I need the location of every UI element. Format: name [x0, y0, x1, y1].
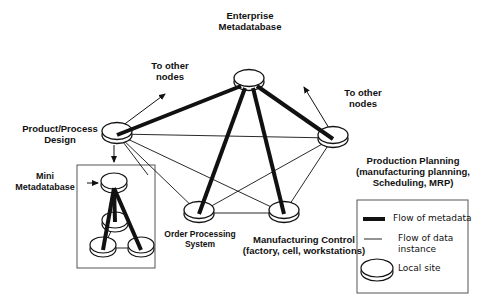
label-line: Enterprise	[210, 10, 290, 21]
label-line: System	[163, 239, 237, 249]
legend-local-site-icon	[361, 259, 393, 281]
legend-label-metadata-flow: Flow of metadata	[393, 213, 472, 224]
label-line: instance	[398, 244, 453, 255]
label-line: Manufacturing Control	[242, 234, 366, 245]
label-line: To other	[140, 60, 200, 71]
label-mini-metadatabase: Mini Metadatabase	[12, 171, 78, 193]
label-line: Design	[20, 134, 100, 145]
label-line: Product/Process	[20, 123, 100, 134]
label-line: nodes	[333, 98, 393, 109]
label-line: Metadatabase	[210, 21, 290, 32]
label-to-other-nodes-right: To other nodes	[333, 87, 393, 109]
label-line: nodes	[140, 71, 200, 82]
label-line: To other	[333, 87, 393, 98]
label-line: Production Planning	[348, 155, 478, 166]
label-line: Flow of data	[398, 233, 453, 244]
label-to-other-nodes-left: To other nodes	[140, 60, 200, 82]
label-line: Scheduling, MRP)	[348, 177, 478, 188]
label-manufacturing-control: Manufacturing Control (factory, cell, wo…	[242, 234, 366, 256]
label-line: Order Processing	[163, 229, 237, 239]
label-order-processing-system: Order Processing System	[163, 229, 237, 249]
label-product-process-design: Product/Process Design	[20, 123, 100, 145]
label-line: Metadatabase	[12, 182, 78, 193]
label-line: (factory, cell, workstations)	[242, 245, 366, 256]
legend-label-data-flow: Flow of data instance	[398, 233, 453, 255]
metadata-flow-edges	[103, 86, 333, 250]
label-enterprise-metadatabase: Enterprise Metadatabase	[210, 10, 290, 32]
label-line: (manufacturing planning,	[348, 166, 478, 177]
label-production-planning: Production Planning (manufacturing plann…	[348, 155, 478, 188]
label-line: Mini	[12, 171, 78, 182]
legend-label-local-site: Local site	[398, 263, 440, 274]
arrow-to-other-nodes-right	[304, 87, 332, 133]
